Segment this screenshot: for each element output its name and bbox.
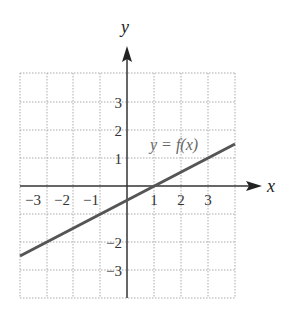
svg-text:−1: −1	[83, 192, 99, 208]
x-axis-label: x	[266, 176, 275, 196]
svg-text:3: 3	[115, 95, 123, 111]
svg-text:−2: −2	[54, 192, 70, 208]
svg-text:2: 2	[115, 123, 123, 139]
svg-text:1: 1	[150, 192, 158, 208]
function-label: y = f(x)	[148, 136, 198, 154]
svg-text:−3: −3	[106, 263, 122, 279]
svg-text:1: 1	[115, 151, 123, 167]
svg-text:−3: −3	[25, 192, 41, 208]
svg-text:2: 2	[177, 192, 185, 208]
svg-text:−2: −2	[106, 235, 122, 251]
svg-text:3: 3	[204, 192, 212, 208]
y-tick-labels: 3 2 1 −2 −3	[106, 95, 122, 279]
function-graph: x y y = f(x) −3 −2 −1 1 2 3 3 2 1 −2 −3	[0, 0, 295, 320]
y-axis-label: y	[119, 17, 129, 37]
